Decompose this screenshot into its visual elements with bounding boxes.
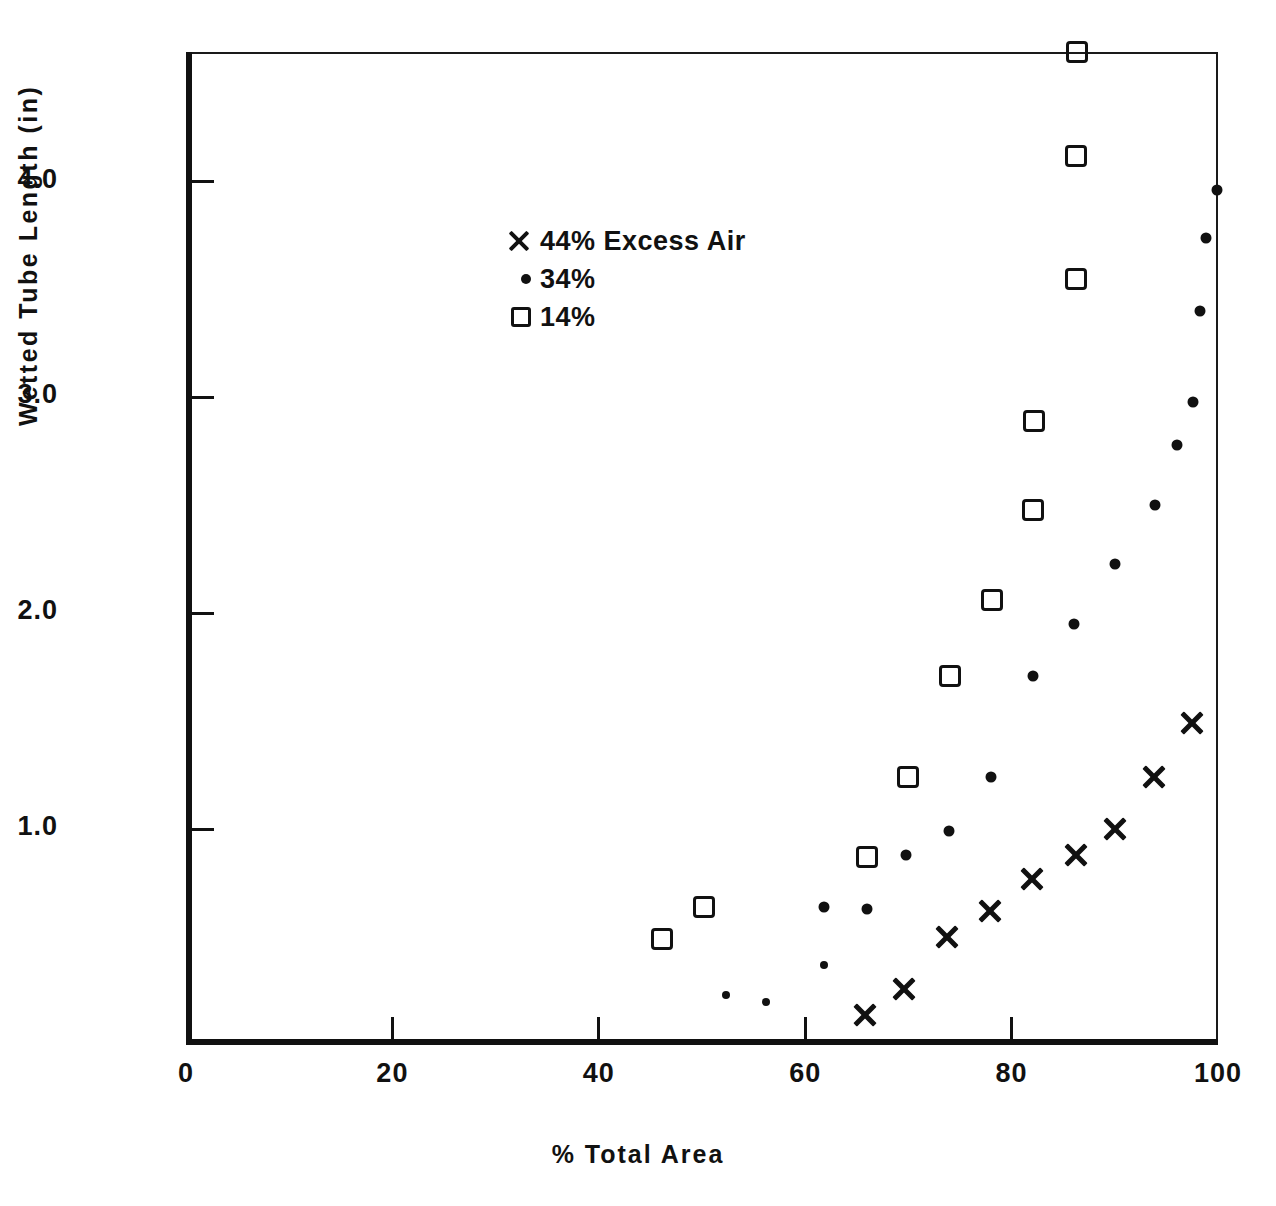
marker-square-icon bbox=[693, 896, 715, 918]
legend-marker-cross-icon bbox=[497, 229, 531, 253]
data-point bbox=[856, 846, 878, 868]
marker-square-icon bbox=[1066, 41, 1088, 63]
x-tick-label-40: 40 bbox=[549, 1058, 649, 1089]
data-point bbox=[1068, 619, 1079, 630]
data-point bbox=[1022, 499, 1044, 521]
marker-square-icon bbox=[1065, 268, 1087, 290]
y-tick-label-1.0: 1.0 bbox=[0, 811, 58, 842]
data-point bbox=[1102, 816, 1128, 842]
data-point bbox=[901, 850, 912, 861]
data-point bbox=[897, 766, 919, 788]
data-point bbox=[891, 976, 917, 1002]
data-point bbox=[820, 961, 828, 969]
marker-cross-icon bbox=[977, 898, 1003, 924]
marker-dot-icon bbox=[820, 961, 828, 969]
x-tick-label-0: 0 bbox=[136, 1058, 236, 1089]
marker-dot-icon bbox=[862, 904, 873, 915]
data-point bbox=[943, 826, 954, 837]
y-tick-4.0 bbox=[192, 180, 214, 183]
marker-cross-icon bbox=[1063, 842, 1089, 868]
x-tick-20 bbox=[391, 1017, 394, 1039]
marker-cross-icon bbox=[852, 1002, 878, 1028]
data-point bbox=[1065, 268, 1087, 290]
marker-dot-icon bbox=[1109, 558, 1120, 569]
marker-dot-icon bbox=[1171, 439, 1182, 450]
marker-dot-icon bbox=[1028, 670, 1039, 681]
marker-cross-icon bbox=[1141, 764, 1167, 790]
figure-scatter-plot: 1.02.03.04.0 020406080100 Wetted Tube Le… bbox=[0, 0, 1276, 1206]
marker-cross-icon bbox=[1019, 866, 1045, 892]
data-point bbox=[939, 665, 961, 687]
y-axis-line bbox=[186, 52, 192, 1045]
chart-legend: 44% Excess Air34%14% bbox=[497, 222, 746, 336]
data-point bbox=[934, 924, 960, 950]
cross-icon bbox=[507, 229, 531, 253]
data-point bbox=[1028, 670, 1039, 681]
data-point bbox=[1150, 500, 1161, 511]
x-tick-label-100: 100 bbox=[1168, 1058, 1268, 1089]
x-axis-line bbox=[186, 1039, 1218, 1045]
y-tick-label-2.0: 2.0 bbox=[0, 595, 58, 626]
data-point bbox=[818, 901, 829, 912]
marker-dot-icon bbox=[1200, 232, 1211, 243]
marker-dot-icon bbox=[818, 901, 829, 912]
marker-dot-icon bbox=[1195, 306, 1206, 317]
data-point bbox=[1065, 145, 1087, 167]
data-point bbox=[1171, 439, 1182, 450]
x-tick-label-20: 20 bbox=[342, 1058, 442, 1089]
plot-frame-top bbox=[186, 52, 1218, 54]
data-point bbox=[651, 928, 673, 950]
legend-item-cross: 44% Excess Air bbox=[497, 222, 746, 260]
data-point bbox=[1019, 866, 1045, 892]
marker-square-icon bbox=[897, 766, 919, 788]
data-point bbox=[1188, 396, 1199, 407]
data-point bbox=[1211, 185, 1222, 196]
data-point bbox=[1141, 764, 1167, 790]
data-point bbox=[1023, 410, 1045, 432]
plot-area bbox=[186, 52, 1218, 1045]
data-point bbox=[1200, 232, 1211, 243]
y-tick-2.0 bbox=[192, 612, 214, 615]
marker-dot-icon bbox=[985, 772, 996, 783]
x-tick-label-60: 60 bbox=[755, 1058, 855, 1089]
marker-dot-icon bbox=[1150, 500, 1161, 511]
x-tick-60 bbox=[804, 1017, 807, 1039]
marker-square-icon bbox=[856, 846, 878, 868]
marker-cross-icon bbox=[1102, 816, 1128, 842]
legend-label: 14% bbox=[540, 302, 596, 333]
marker-cross-icon bbox=[1179, 710, 1205, 736]
data-point bbox=[985, 772, 996, 783]
marker-square-icon bbox=[1023, 410, 1045, 432]
marker-square-icon bbox=[981, 589, 1003, 611]
marker-square-icon bbox=[939, 665, 961, 687]
legend-marker-square-icon bbox=[497, 307, 531, 327]
legend-item-dot: 34% bbox=[497, 260, 746, 298]
x-axis-title: % Total Area bbox=[0, 1140, 1276, 1169]
marker-dot-icon bbox=[1211, 185, 1222, 196]
square-icon bbox=[511, 307, 531, 327]
data-point bbox=[1066, 41, 1088, 63]
marker-dot-icon bbox=[1068, 619, 1079, 630]
marker-square-icon bbox=[1022, 499, 1044, 521]
legend-label: 34% bbox=[540, 264, 596, 295]
marker-dot-icon bbox=[901, 850, 912, 861]
x-tick-80 bbox=[1010, 1017, 1013, 1039]
marker-dot-icon bbox=[762, 998, 770, 1006]
data-point bbox=[862, 904, 873, 915]
x-tick-label-80: 80 bbox=[962, 1058, 1062, 1089]
legend-label: 44% Excess Air bbox=[540, 226, 746, 257]
data-point bbox=[722, 991, 730, 999]
data-point bbox=[1063, 842, 1089, 868]
marker-dot-icon bbox=[722, 991, 730, 999]
data-point bbox=[852, 1002, 878, 1028]
legend-marker-dot-icon bbox=[497, 274, 531, 284]
data-point bbox=[1179, 710, 1205, 736]
plot-frame-right bbox=[1216, 52, 1218, 1045]
dot-icon bbox=[521, 274, 531, 284]
y-axis-title: Wetted Tube Length (in) bbox=[14, 380, 43, 426]
marker-square-icon bbox=[1065, 145, 1087, 167]
marker-square-icon bbox=[651, 928, 673, 950]
x-tick-40 bbox=[597, 1017, 600, 1039]
legend-item-square: 14% bbox=[497, 298, 746, 336]
marker-cross-icon bbox=[934, 924, 960, 950]
